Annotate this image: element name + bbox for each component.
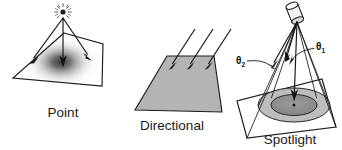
theta-inner-subscript: 1 xyxy=(321,47,325,54)
caption-spotlight: Spotlight xyxy=(264,132,317,147)
figure-canvas: Point xyxy=(0,0,342,150)
light-types-figure: Point xyxy=(0,0,342,150)
caption-point: Point xyxy=(48,105,79,120)
theta-outer-subscript: 2 xyxy=(241,61,245,68)
spotlight-center-point xyxy=(293,104,296,107)
caption-directional: Directional xyxy=(140,118,204,133)
